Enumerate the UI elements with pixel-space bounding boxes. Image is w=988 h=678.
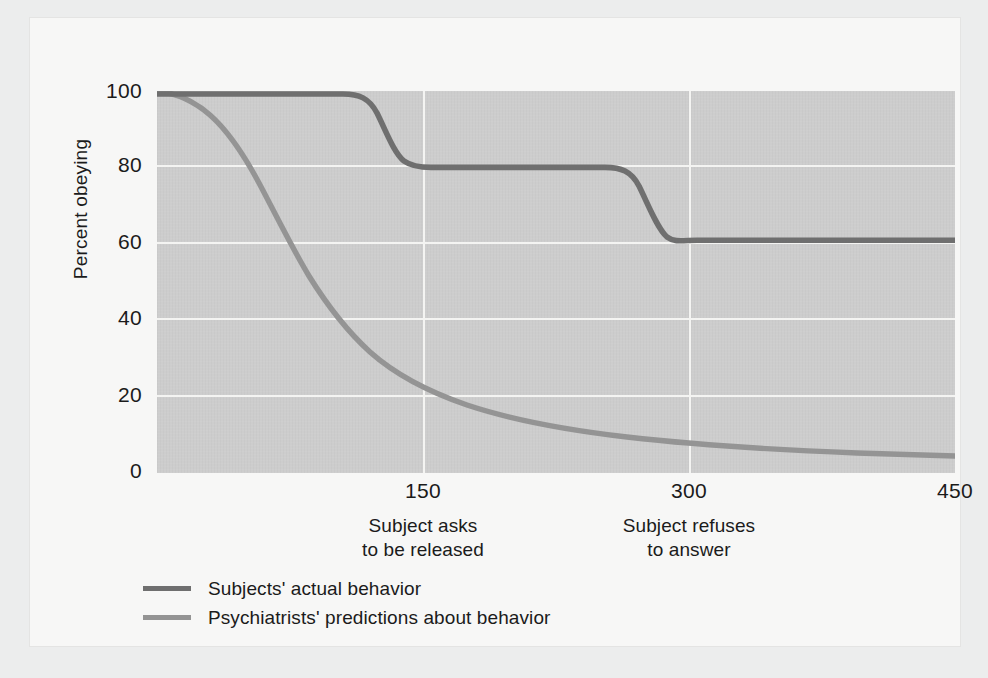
plot-area [157,91,955,473]
x-annotation-300: 300 Subject refuses to answer [559,480,819,563]
legend-label-subjects-actual-behavior: Subjects' actual behavior [208,578,421,600]
legend-swatch-subjects-actual-behavior [143,586,191,591]
x-annotation-150-line1: Subject asks [293,514,553,538]
y-tick-20: 20 [88,384,142,405]
x-annotation-450: 450 [825,480,988,502]
x-annotation-150-line2: to be released [293,538,553,562]
legend-label-psychiatrists-predictions: Psychiatrists' predictions about behavio… [208,607,551,629]
legend-swatch-psychiatrists-predictions [143,615,191,620]
y-axis-label: Percent obeying [68,18,94,400]
legend-item-psychiatrists-predictions: Psychiatrists' predictions about behavio… [143,603,551,632]
y-tick-40: 40 [88,307,142,328]
chart-lines [157,91,955,473]
x-tick-300: 300 [559,480,819,502]
x-tick-450: 450 [825,480,988,502]
x-tick-150: 150 [293,480,553,502]
x-annotation-150: 150 Subject asks to be released [293,480,553,563]
figure-page: Percent obeying 100 80 60 40 20 0 150 Su… [0,0,988,678]
legend-item-subjects-actual-behavior: Subjects' actual behavior [143,574,551,603]
y-tick-60: 60 [88,231,142,252]
y-tick-0: 0 [88,460,142,481]
y-tick-80: 80 [88,154,142,175]
figure-card: Percent obeying 100 80 60 40 20 0 150 Su… [30,18,960,646]
x-annotation-300-line2: to answer [559,538,819,562]
x-annotation-300-line1: Subject refuses [559,514,819,538]
chart-legend: Subjects' actual behavior Psychiatrists'… [143,574,551,632]
y-tick-100: 100 [88,80,142,101]
series-line-psychiatrists-predictions [157,91,955,456]
